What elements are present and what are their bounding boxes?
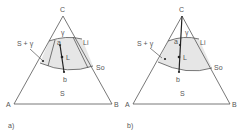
solid-label-b: S	[180, 90, 185, 97]
vertex-C-a: C	[60, 6, 65, 13]
point-L-label-b: L	[183, 54, 187, 61]
vertex-B-b: B	[232, 101, 237, 108]
point-sg-a	[42, 60, 44, 62]
solidus-label-a: So	[96, 64, 105, 71]
vertex-A-b: A	[125, 101, 130, 108]
vertex-A-a: A	[6, 101, 11, 108]
point-a-label-b: a	[174, 38, 178, 45]
point-a-b	[179, 44, 181, 46]
arrow-sg-a	[30, 49, 42, 60]
point-L-a	[61, 56, 64, 59]
liquidus-label-a: Li	[83, 39, 89, 46]
gamma-label-b: γ	[185, 29, 189, 37]
arrow-sg-b	[150, 48, 162, 58]
point-L-b	[178, 56, 181, 59]
point-b-label-a: b	[63, 76, 67, 83]
diagram-a: C A B γ a L b Li So S + γ S a)	[6, 6, 119, 130]
diagram-b: C A B γ a L b Li So S + γ S b)	[125, 6, 237, 130]
point-b-a	[63, 71, 65, 73]
two-phase-label-a: S + γ	[17, 40, 34, 48]
solid-label-a: S	[60, 90, 65, 97]
ternary-diagrams: C A B γ a L b Li So S + γ S a) C A B γ a…	[0, 0, 245, 138]
solidus-label-b: So	[214, 64, 223, 71]
point-a-label-a: a	[57, 39, 61, 46]
point-L-label-a: L	[66, 54, 70, 61]
liquidus-label-b: Li	[200, 39, 206, 46]
point-b-b	[178, 71, 180, 73]
vertex-C-b: C	[179, 6, 184, 13]
caption-b: b)	[127, 122, 133, 130]
point-sg-b	[164, 58, 166, 60]
two-phase-label-b: S + γ	[137, 40, 154, 48]
vertex-B-a: B	[114, 101, 119, 108]
point-b-label-b: b	[176, 76, 180, 83]
gamma-label-a: γ	[61, 29, 65, 37]
caption-a: a)	[8, 122, 14, 130]
